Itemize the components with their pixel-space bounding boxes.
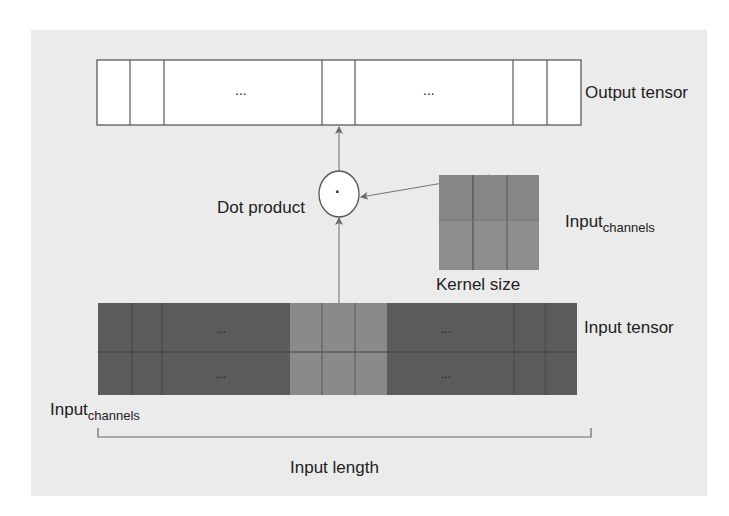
input-ellipsis-left-bottom: ... [216, 364, 226, 384]
input-tensor-label: Input tensor [584, 318, 674, 338]
input-length-label: Input length [290, 458, 379, 478]
conv1d-diagram [0, 0, 729, 516]
output-tensor-label: Output tensor [585, 83, 688, 103]
input-ellipsis-right-bottom: ... [441, 364, 451, 384]
input-length-bracket [98, 428, 591, 437]
dot-product-label: Dot product [217, 198, 305, 218]
input-ellipsis-left-top: ... [216, 319, 226, 339]
dot-operator-symbol: · [335, 182, 340, 202]
kernel [439, 175, 539, 270]
input-ellipsis-right-top: ... [441, 319, 451, 339]
input-channels-label: Inputchannels [50, 400, 140, 420]
input-window-highlight [290, 303, 387, 395]
output-tensor [97, 60, 581, 125]
output-ellipsis-left: ... [235, 80, 247, 100]
kernel-channels-label: Inputchannels [565, 212, 655, 232]
input-tensor [98, 303, 577, 395]
kernel-size-label: Kernel size [436, 275, 520, 295]
output-ellipsis-right: ... [423, 80, 435, 100]
